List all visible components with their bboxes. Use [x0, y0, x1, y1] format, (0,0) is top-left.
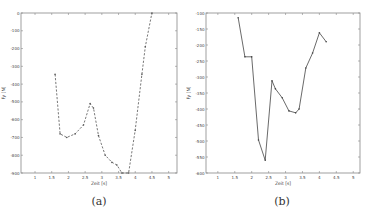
data-point-marker	[237, 17, 239, 19]
x-tick-label: 1.5	[232, 175, 239, 180]
x-tick-label: 3	[101, 175, 104, 180]
y-tick-label: -300	[10, 64, 20, 69]
y-tick-label: -400	[10, 82, 20, 87]
x-tick-label: 2	[250, 175, 253, 180]
data-point-marker	[89, 103, 91, 105]
y-axis-title: Fy [N]	[186, 86, 191, 99]
plot-frame	[206, 13, 360, 173]
y-tick-label: -900	[10, 171, 20, 176]
y-tick-label: -150	[195, 27, 205, 32]
data-point-marker	[134, 130, 136, 132]
data-point-marker	[116, 164, 118, 166]
x-tick-label: 3.5	[299, 175, 306, 180]
x-tick-label: 2.5	[82, 175, 89, 180]
x-tick-label: 4.5	[149, 175, 156, 180]
data-point-marker	[298, 108, 300, 110]
y-tick-label: -350	[195, 91, 205, 96]
caption-b: (b)	[262, 195, 302, 208]
y-tick-label: -500	[195, 139, 205, 144]
x-axis-title: Zeit [s]	[275, 181, 291, 186]
y-tick-label: -600	[10, 117, 20, 122]
data-point-marker	[244, 56, 246, 58]
data-point-marker	[264, 159, 266, 161]
data-point-marker	[312, 52, 314, 54]
data-point-marker	[74, 133, 76, 135]
x-tick-label: 4.5	[333, 175, 340, 180]
data-point-marker	[151, 12, 153, 14]
x-tick-label: 3.5	[115, 175, 122, 180]
data-point-marker	[111, 162, 113, 164]
x-tick-label: 3	[284, 175, 287, 180]
y-tick-label: 0	[17, 11, 20, 16]
data-point-marker	[295, 112, 297, 114]
x-tick-label: 5	[352, 175, 355, 180]
x-tick-label: 1.5	[49, 175, 56, 180]
data-point-marker	[275, 88, 277, 90]
x-tick-label: 1	[217, 175, 220, 180]
data-point-marker	[319, 32, 321, 34]
chart-panel-b: 11.522.533.544.55-100-150-200-250-300-35…	[185, 0, 367, 195]
y-tick-label: -250	[195, 59, 205, 64]
data-point-marker	[325, 41, 327, 43]
data-point-marker	[281, 97, 283, 99]
data-point-marker	[271, 80, 273, 82]
data-point-marker	[141, 74, 143, 76]
data-point-marker	[83, 124, 85, 126]
chart-b-svg: 11.522.533.544.55-100-150-200-250-300-35…	[185, 0, 367, 195]
x-tick-label: 1	[34, 175, 37, 180]
y-tick-label: -550	[195, 155, 205, 160]
data-point-marker	[93, 107, 95, 109]
data-point-marker	[251, 56, 253, 58]
y-tick-label: -200	[10, 46, 20, 51]
y-tick-label: -100	[10, 28, 20, 33]
y-axis-title: Fy [N]	[1, 86, 6, 99]
data-line	[238, 18, 326, 160]
y-tick-label: -300	[195, 75, 205, 80]
caption-a: (a)	[79, 195, 119, 208]
y-tick-label: -100	[195, 11, 205, 16]
data-point-marker	[144, 46, 146, 48]
x-tick-label: 2.5	[265, 175, 272, 180]
y-tick-label: -800	[10, 153, 20, 158]
data-point-marker	[104, 154, 106, 156]
chart-panel-a: 11.522.533.544.550-100-200-300-400-500-6…	[0, 0, 185, 195]
data-point-marker	[98, 135, 100, 137]
x-tick-label: 4	[134, 175, 137, 180]
data-point-marker	[59, 133, 61, 135]
data-point-marker	[305, 67, 307, 69]
data-point-marker	[258, 139, 260, 141]
y-tick-label: -500	[10, 99, 20, 104]
chart-a-svg: 11.522.533.544.550-100-200-300-400-500-6…	[0, 0, 185, 195]
plot-frame	[21, 13, 177, 173]
y-tick-label: -600	[195, 171, 205, 176]
data-point-marker	[128, 172, 130, 174]
x-axis-title: Zeit [s]	[91, 181, 107, 186]
y-tick-label: -700	[10, 135, 20, 140]
x-tick-label: 2	[67, 175, 70, 180]
data-point-marker	[66, 137, 68, 139]
y-tick-label: -200	[195, 43, 205, 48]
y-tick-label: -400	[195, 107, 205, 112]
data-point-marker	[54, 74, 56, 76]
data-point-marker	[288, 110, 290, 112]
x-tick-label: 5	[167, 175, 170, 180]
data-point-marker	[121, 172, 123, 174]
x-tick-label: 4	[318, 175, 321, 180]
y-tick-label: -450	[195, 123, 205, 128]
data-line	[55, 13, 152, 173]
